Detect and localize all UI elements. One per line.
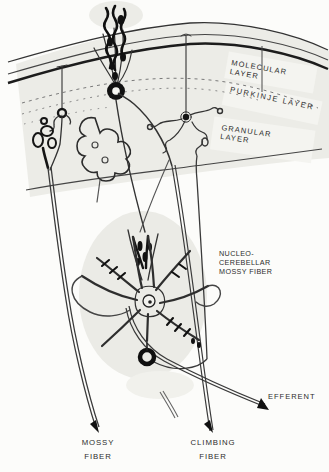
label-mossy-fiber: MOSSY FIBER xyxy=(74,436,122,464)
label-climbing-fiber: CLIMBING FIBER xyxy=(185,436,241,464)
cerebellum-circuit-diagram: MOLECULAR LAYER PURKINJE LAYER GRANULAR … xyxy=(0,0,329,472)
label-efferent: EFFERENT xyxy=(268,393,316,402)
label-line: CEREBELLAR xyxy=(219,258,272,267)
label-nucleo-cerebellar-mossy-fiber: NUCLEO- CEREBELLAR MOSSY FIBER xyxy=(219,249,272,276)
label-line: CLIMBING xyxy=(185,436,241,450)
label-line: FIBER xyxy=(74,450,122,464)
label-line: NUCLEO- xyxy=(219,249,272,258)
label-line: MOSSY FIBER xyxy=(219,267,272,276)
background-washes xyxy=(16,1,329,399)
label-line: FIBER xyxy=(185,450,241,464)
label-line: MOSSY xyxy=(74,436,122,450)
label-line: EFFERENT xyxy=(268,393,316,402)
